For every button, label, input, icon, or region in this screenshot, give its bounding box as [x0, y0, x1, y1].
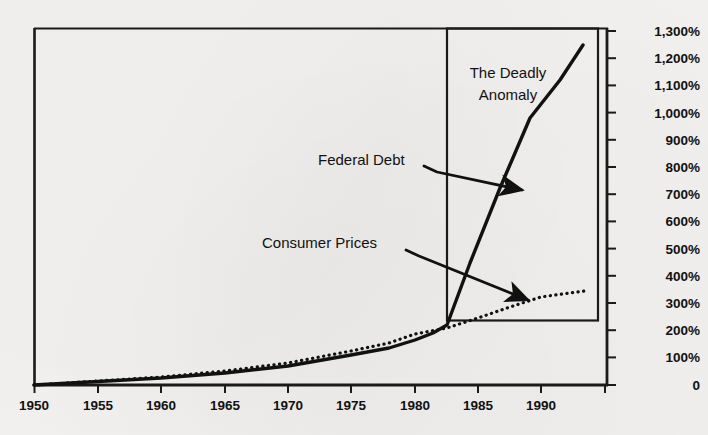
y-tick-label: 500%: [665, 242, 700, 257]
consumer-prices-label: Consumer Prices: [262, 234, 377, 251]
x-tick-label: 1960: [146, 398, 176, 413]
consumer-prices-dotted-line: [34, 291, 585, 385]
x-tick-label: 1975: [336, 398, 367, 413]
x-tick-label: 1970: [273, 398, 303, 413]
chart-page: 1950 1955 1960 1965 1970 1975 1980 1985 …: [0, 0, 708, 435]
y-tick-label: 600%: [665, 214, 700, 229]
y-tick-label: 1,300%: [654, 24, 700, 39]
y-tick-label: 700%: [665, 187, 700, 202]
y-tick-label: 1,000%: [654, 106, 700, 121]
y-tick-label: 900%: [665, 133, 700, 148]
x-tick-label: 1955: [83, 398, 114, 413]
y-tick-label: 400%: [665, 269, 700, 284]
deadly-anomaly-label-line1: The Deadly: [470, 64, 547, 81]
x-tick-label: 1985: [463, 398, 494, 413]
x-tick-label: 1965: [210, 398, 241, 413]
y-tick-label: 300%: [665, 296, 700, 311]
y-tick-label: 1,200%: [654, 51, 700, 66]
federal-debt-label: Federal Debt: [318, 151, 406, 168]
y-tick-label: 200%: [665, 323, 700, 338]
consumer-prices-annotation: Consumer Prices: [262, 234, 528, 300]
series-consumer-prices: [34, 291, 585, 385]
x-tick-label: 1990: [526, 398, 556, 413]
y-tick-label: 1,100%: [654, 78, 700, 93]
x-tick-label: 1980: [400, 398, 430, 413]
x-axis-labels: 1950 1955 1960 1965 1970 1975 1980 1985 …: [19, 398, 556, 413]
y-tick-label: 0: [692, 378, 700, 393]
y-axis-labels: 1,300% 1,200% 1,100% 1,000% 900% 800% 70…: [654, 24, 700, 393]
federal-debt-annotation: Federal Debt: [318, 151, 522, 190]
deadly-anomaly-label-line2: Anomaly: [479, 86, 538, 103]
plot-frame: [34, 28, 608, 385]
x-tick-label: 1950: [19, 398, 49, 413]
federal-debt-vs-consumer-prices-chart: 1950 1955 1960 1965 1970 1975 1980 1985 …: [0, 0, 708, 435]
y-tick-label: 800%: [665, 160, 700, 175]
y-tick-label: 100%: [665, 350, 700, 365]
